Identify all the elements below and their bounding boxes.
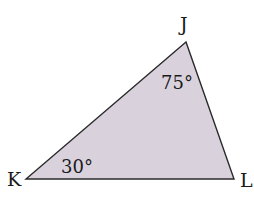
- vertex-label-k: K: [7, 168, 22, 190]
- vertex-label-j: J: [178, 13, 188, 35]
- diagram-canvas: J K L 75° 30°: [0, 0, 254, 209]
- angle-label-k: 30°: [61, 156, 93, 177]
- triangle-jkl: [26, 42, 234, 179]
- vertex-label-l: L: [240, 169, 253, 191]
- triangle-diagram: J K L 75° 30°: [0, 0, 254, 209]
- angle-label-j: 75°: [161, 72, 193, 93]
